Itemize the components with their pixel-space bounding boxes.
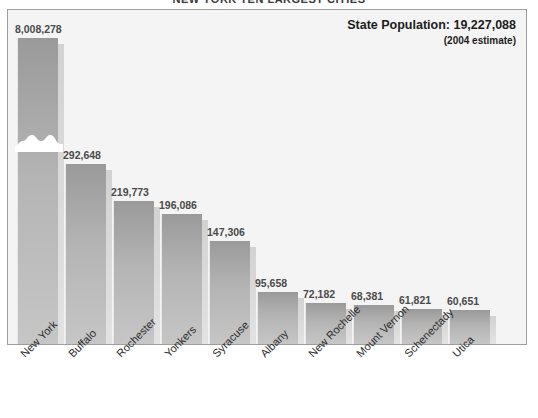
bar-new-york[interactable] <box>17 38 58 344</box>
bar-value-label: 8,008,278 <box>15 23 62 35</box>
bar-buffalo[interactable] <box>65 164 106 344</box>
bar-shadow <box>57 44 64 344</box>
bar-value-label: 95,658 <box>255 277 287 289</box>
bar-value-label: 68,381 <box>351 290 383 302</box>
bar-value-label: 60,651 <box>447 295 479 307</box>
bar-value-label: 219,773 <box>111 186 149 198</box>
bar-value-label: 196,086 <box>159 199 197 211</box>
bar-value-label: 292,648 <box>63 149 101 161</box>
bar-value-label: 72,182 <box>303 288 335 300</box>
bar-shadow <box>249 247 256 344</box>
chart-plot-area: State Population: 19,227,088 (2004 estim… <box>7 9 527 345</box>
bars-container: 8,008,278292,648219,773196,086147,30695,… <box>8 10 526 344</box>
bar-shadow <box>297 298 304 344</box>
bar-shadow <box>201 220 208 344</box>
page-title: NEW YORK TEN LARGEST CITIES <box>0 0 538 3</box>
bar-yonkers[interactable] <box>161 214 202 344</box>
bar-value-label: 147,306 <box>207 226 245 238</box>
bar-shadow <box>489 316 496 344</box>
chart-title-strip: NEW YORK TEN LARGEST CITIES <box>0 0 538 3</box>
